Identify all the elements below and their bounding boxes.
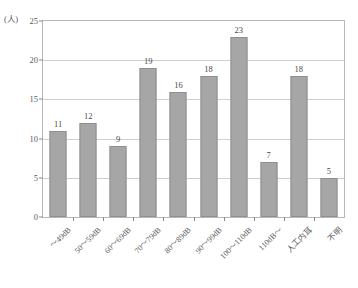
x-axis-tick-mark xyxy=(284,217,285,221)
bar-value-label: 19 xyxy=(144,56,153,66)
x-axis-tick-mark xyxy=(254,217,255,221)
y-axis-unit-label: (人) xyxy=(4,12,18,24)
bar xyxy=(50,131,67,217)
bar-slot: 19 xyxy=(133,21,163,217)
x-axis-labels: 〜49dB50〜59dB60〜69dB70〜79dB80〜89dB90〜99dB… xyxy=(42,224,345,288)
bar-value-label: 23 xyxy=(234,25,243,35)
plot-area: 0510152025 11129191618237185 xyxy=(42,20,345,218)
bar-value-label: 18 xyxy=(295,64,304,74)
bar-slot: 18 xyxy=(194,21,224,217)
x-axis-tick-mark xyxy=(314,217,315,221)
x-axis-tick-mark xyxy=(194,217,195,221)
x-axis-tick-mark xyxy=(133,217,134,221)
bar xyxy=(140,68,157,217)
bar-value-label: 16 xyxy=(174,80,183,90)
bar xyxy=(80,123,97,217)
bar-value-label: 7 xyxy=(267,150,271,160)
x-axis-tick-mark xyxy=(163,217,164,221)
bar xyxy=(260,162,277,217)
bar-value-label: 5 xyxy=(327,166,331,176)
x-axis-tick-mark xyxy=(73,217,74,221)
bar-slot: 12 xyxy=(73,21,103,217)
bar xyxy=(320,178,337,217)
bar-slot: 16 xyxy=(163,21,193,217)
bar-value-label: 18 xyxy=(204,64,213,74)
x-axis-tick-mark xyxy=(224,217,225,221)
bar-slot: 23 xyxy=(224,21,254,217)
bar-slot: 11 xyxy=(43,21,73,217)
bar xyxy=(230,37,247,217)
bar xyxy=(170,92,187,217)
y-axis-tick-label: 0 xyxy=(34,212,38,222)
bar xyxy=(200,76,217,217)
y-axis-tick-label: 10 xyxy=(30,134,39,144)
bar-slot: 9 xyxy=(103,21,133,217)
y-axis-tick-label: 20 xyxy=(30,55,39,65)
bar-value-label: 11 xyxy=(54,119,62,129)
bars-layer: 11129191618237185 xyxy=(43,21,344,217)
bar xyxy=(110,146,127,217)
y-axis-tick-label: 15 xyxy=(30,94,39,104)
bar-value-label: 12 xyxy=(84,111,93,121)
bar-slot: 18 xyxy=(284,21,314,217)
y-axis-tick-label: 5 xyxy=(34,173,38,183)
bar-slot: 5 xyxy=(314,21,344,217)
bar-value-label: 9 xyxy=(116,134,120,144)
x-axis-tick-mark xyxy=(103,217,104,221)
bar xyxy=(290,76,307,217)
bar-slot: 7 xyxy=(254,21,284,217)
bar-chart: (人) 0510152025 11129191618237185 〜49dB50… xyxy=(0,0,358,288)
y-axis-tick-label: 25 xyxy=(30,16,39,26)
